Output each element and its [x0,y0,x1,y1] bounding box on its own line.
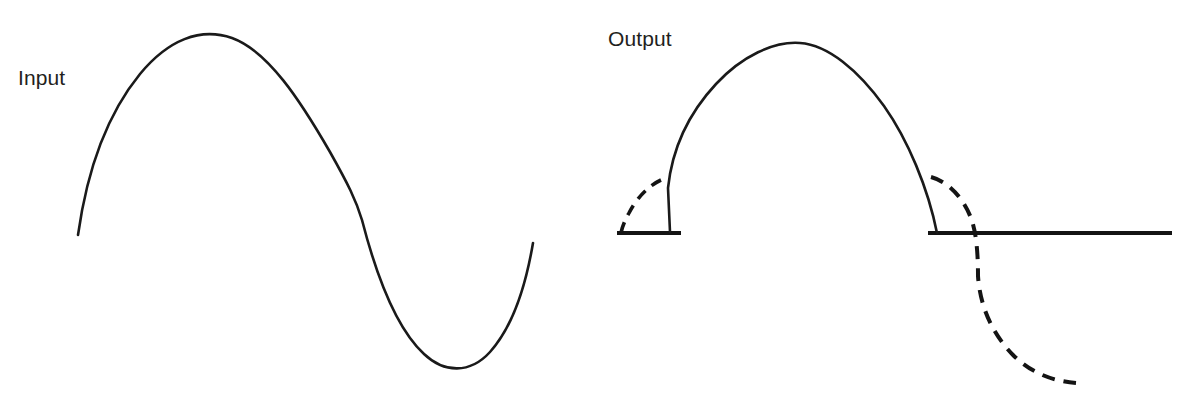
input-panel: Input [18,34,533,368]
output-panel: Output [608,27,1172,383]
output-arch-curve [668,43,937,233]
output-clipped-arc-right [931,177,1076,383]
output-clipped-arc-left [621,180,661,233]
diagram-canvas: Input Output [0,0,1185,403]
input-panel-label: Input [18,66,65,89]
figure-root: Input Output [0,0,1185,403]
output-panel-label: Output [608,27,672,50]
input-waveform-curve [78,34,533,368]
